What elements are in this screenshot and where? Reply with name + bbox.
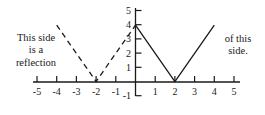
x-tick-labels: -5 -4 -3 -2 -1 1 2 3 4 5 [33, 86, 237, 97]
annotation-left-text: This side is a reflection [4, 32, 68, 69]
dashed-v-curve [57, 25, 136, 81]
x-tick-label: -5 [33, 86, 41, 97]
y-tick-label: 2 [126, 48, 131, 59]
x-tick-label: -4 [53, 86, 61, 97]
y-axis-ticks [136, 11, 142, 96]
y-tick-label: 5 [126, 5, 131, 16]
x-tick-label: 3 [192, 86, 197, 97]
solid-v-curve [136, 25, 215, 81]
x-tick-label: -2 [92, 86, 100, 97]
y-tick-label: 4 [126, 19, 131, 30]
x-tick-label: 4 [212, 86, 217, 97]
y-tick-label: -1 [123, 90, 131, 101]
y-tick-labels: 5 4 3 2 1 -1 [123, 5, 131, 101]
y-tick-label: 1 [126, 62, 131, 73]
x-tick-label: 1 [153, 86, 158, 97]
x-tick-label: 5 [232, 86, 237, 97]
graph-figure: -5 -4 -3 -2 -1 1 2 3 4 5 5 4 3 2 1 -1 Th… [0, 0, 265, 115]
x-tick-label: -3 [72, 86, 80, 97]
x-tick-label: -1 [112, 86, 120, 97]
annotation-right-text: of this side. [214, 33, 262, 58]
x-tick-label: 2 [172, 86, 177, 97]
